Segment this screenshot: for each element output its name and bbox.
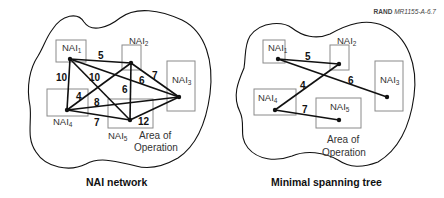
weight-4-5: 7: [94, 117, 100, 128]
tree-weight-2-4: 4: [300, 80, 306, 91]
network-caption: NAI network: [86, 176, 147, 188]
nai5-label: NAI5: [330, 101, 350, 113]
nai5-label: NAI5: [108, 130, 128, 142]
weight-1-2: 5: [98, 50, 104, 61]
area-label-line1: Area of: [327, 134, 359, 145]
nai4-label: NAI4: [53, 116, 73, 128]
nai4-node: [65, 108, 69, 112]
diagram-canvas: NAI1 NAI2 NAI3 NAI4 NAI5 5 10 10 6 7 6 4…: [0, 0, 444, 198]
weight-4-3: 8: [94, 97, 100, 108]
nai2-node: [337, 62, 341, 66]
area-label-line1: Area of: [139, 130, 171, 141]
area-label-line2: Operation: [134, 142, 178, 153]
nai5-node: [337, 118, 341, 122]
nai1-label: NAI1: [62, 42, 82, 54]
tree-weight-1-2: 5: [305, 51, 311, 62]
weight-1-3: 6: [139, 75, 145, 86]
nai3-box: [375, 61, 403, 111]
weight-2-3: 7: [152, 70, 158, 81]
weight-2-4: 4: [76, 91, 82, 102]
tree-weight-1-3: 6: [348, 75, 354, 86]
nai1-node: [68, 57, 72, 61]
nai5-node: [128, 118, 132, 122]
nai1-node: [276, 57, 280, 61]
nai3-label: NAI3: [380, 74, 400, 86]
nai2-box: [330, 45, 349, 70]
nai2-label: NAI2: [337, 35, 357, 47]
weight-5-3: 12: [138, 116, 150, 127]
weight-2-5: 6: [122, 84, 128, 95]
nai2-node: [129, 61, 133, 65]
tree-edge-1-3: [278, 59, 387, 97]
weight-1-4: 10: [56, 72, 68, 83]
nai3-node: [385, 95, 389, 99]
weight-1-5: 10: [89, 72, 101, 83]
network-diagram: NAI1 NAI2 NAI3 NAI4 NAI5 5 10 10 6 7 6 4…: [28, 11, 211, 168]
edge-2-5: [130, 63, 131, 120]
nai4-label: NAI4: [258, 92, 278, 104]
spanning-tree-diagram: NAI1 NAI2 NAI3 NAI4 NAI5 5 6 4 7 Area of…: [236, 22, 415, 166]
nai3-node: [177, 95, 181, 99]
tree-weight-4-5: 7: [302, 104, 308, 115]
edge-1-4: [67, 59, 70, 110]
nai3-label: NAI3: [172, 74, 192, 86]
nai3-box: [167, 61, 195, 111]
tree-caption: Minimal spanning tree: [271, 176, 382, 188]
area-label-line2: Operation: [322, 147, 366, 158]
nai2-label: NAI2: [129, 35, 149, 47]
nai4-node: [273, 108, 277, 112]
